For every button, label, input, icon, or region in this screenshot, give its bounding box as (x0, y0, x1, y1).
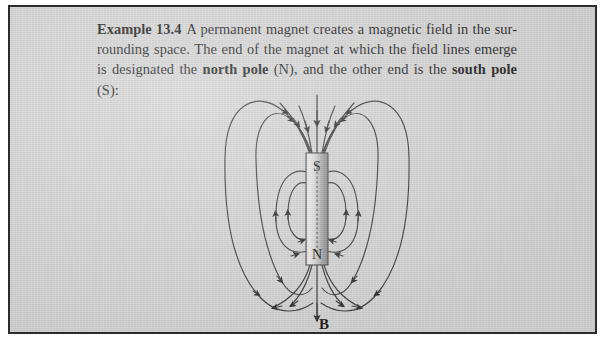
page-root: Example 13.4A permanent magnet creates a… (0, 0, 609, 351)
field-line-converge-top-left-b (280, 103, 310, 154)
figure-box: Example 13.4A permanent magnet creates a… (8, 5, 597, 334)
field-vector-label-B: B (319, 316, 329, 333)
field-line-outer-right (321, 101, 409, 311)
field-line-emerge-bottom-left-a (290, 265, 312, 306)
field-line-converge-top-right-b (324, 103, 354, 154)
field-line-mid-left (256, 113, 312, 294)
field-lines-svg: S N (10, 7, 597, 334)
field-line-converge-top-left-a (299, 106, 312, 153)
magnet-north-pole-letter: N (312, 247, 322, 262)
magnet-south-pole-letter: S (313, 159, 321, 174)
field-line-mid-right (322, 113, 378, 294)
field-line-emerge-bottom-right-a (322, 265, 344, 306)
bar-magnet: S N (306, 153, 328, 265)
field-line-outer-left (225, 101, 313, 311)
magnet-field-diagram: S N B (10, 7, 597, 334)
field-line-inner-left-outer (275, 171, 310, 256)
field-line-inner-right-outer (324, 171, 359, 256)
field-line-converge-top-right-a (322, 106, 335, 153)
